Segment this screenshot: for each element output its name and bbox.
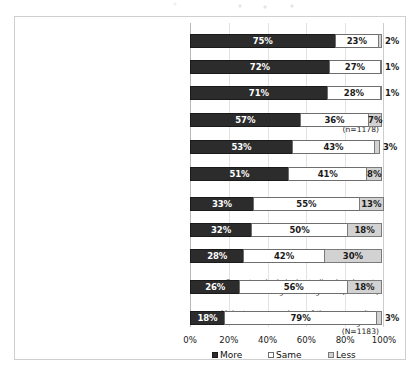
- bar-row: 51%41%8%: [190, 167, 384, 181]
- bar-row: 32%50%18%: [190, 223, 384, 237]
- bar-row: 71%28%1%: [190, 86, 384, 100]
- legend-label: More: [220, 350, 242, 360]
- legend-item-less[interactable]: Less: [328, 350, 356, 360]
- bar-segment-same: 28%: [327, 86, 381, 100]
- x-tick-label: 100%: [372, 335, 397, 345]
- x-axis: 0%20%40%60%80%100%: [190, 335, 384, 347]
- bar-value-label: 18%: [355, 226, 375, 235]
- bar-segment-same: 43%: [292, 140, 375, 154]
- bar-segment-same: 23%: [335, 34, 380, 48]
- bar-segment-same: 55%: [253, 197, 360, 211]
- bar-value-label: 7%: [368, 116, 382, 125]
- bar-value-label: 57%: [235, 116, 255, 125]
- bar-value-label: 41%: [318, 170, 338, 179]
- bar-segment-same: 79%: [224, 311, 377, 325]
- bar-value-label: 1%: [385, 63, 399, 72]
- bar-value-label: 8%: [367, 170, 381, 179]
- bar-value-label: 51%: [229, 170, 249, 179]
- bar-segment-same: 27%: [329, 60, 381, 74]
- legend-label: Same: [276, 350, 302, 360]
- x-tick-label: 40%: [258, 335, 277, 345]
- bar-segment-more: 53%: [190, 140, 293, 154]
- bar-segment-same: 42%: [243, 249, 324, 263]
- bar-value-label: 75%: [253, 37, 273, 46]
- legend-swatch-more-icon: [212, 352, 218, 358]
- bar-segment-more: 28%: [190, 249, 244, 263]
- bar-segment-more: 18%: [190, 311, 225, 325]
- bar-value-label: 18%: [354, 283, 374, 292]
- bar-segment-more: 33%: [190, 197, 254, 211]
- bar-value-label: 72%: [250, 63, 270, 72]
- bar-value-label: 27%: [345, 63, 365, 72]
- bar-value-label: 13%: [361, 200, 381, 209]
- legend-swatch-same-icon: [268, 352, 274, 358]
- bar-segment-less: 18%: [347, 280, 382, 294]
- bar-segment-more: 71%: [190, 86, 328, 100]
- bar-segment-more: 51%: [190, 167, 289, 181]
- chart-container: People with a mental illness (1190)75%23…: [14, 16, 406, 360]
- plot-area: People with a mental illness (1190)75%23…: [190, 23, 384, 327]
- bar-segment-more: 72%: [190, 60, 330, 74]
- bar-value-label: 43%: [323, 143, 343, 152]
- bar-value-label: 79%: [291, 314, 311, 323]
- x-tick-label: 60%: [297, 335, 316, 345]
- bar-row: 57%36%7%: [190, 113, 384, 127]
- bar-value-label: 26%: [205, 283, 225, 292]
- bar-segment-less: 18%: [347, 223, 382, 237]
- bar-value-label: 3%: [385, 314, 399, 323]
- bar-segment-less: 30%: [324, 249, 382, 263]
- bar-row: 33%55%13%: [190, 197, 384, 211]
- legend-swatch-less-icon: [328, 352, 334, 358]
- bar-segment-less: 13%: [359, 197, 384, 211]
- bar-value-label: 23%: [347, 37, 367, 46]
- bar-value-label: 28%: [344, 89, 364, 98]
- bar-row: 18%79%3%: [190, 311, 384, 325]
- bar-segment-same: 36%: [300, 113, 370, 127]
- x-tick-label: 80%: [336, 335, 355, 345]
- bar-row: 72%27%1%: [190, 60, 384, 74]
- bar-value-label: 2%: [385, 37, 399, 46]
- bar-value-label: 1%: [385, 89, 399, 98]
- bar-segment-more: 26%: [190, 280, 240, 294]
- bar-segment-more: 57%: [190, 113, 301, 127]
- bar-row: 75%23%2%: [190, 34, 384, 48]
- scan-artifacts: [0, 0, 420, 14]
- legend-item-same[interactable]: Same: [268, 350, 302, 360]
- bar-value-label: 50%: [290, 226, 310, 235]
- x-tick-label: 20%: [219, 335, 238, 345]
- bar-segment-more: 32%: [190, 223, 252, 237]
- bar-row: 28%42%30%: [190, 249, 384, 263]
- bar-segment-less: 3%: [374, 140, 380, 154]
- bar-segment-less: 2%: [378, 34, 382, 48]
- bar-value-label: 36%: [324, 116, 344, 125]
- bar-segment-less: 8%: [366, 167, 382, 181]
- bar-segment-same: 50%: [251, 223, 348, 237]
- bar-row: 26%56%18%: [190, 280, 384, 294]
- bar-segment-same: 56%: [239, 280, 348, 294]
- bar-segment-less: 3%: [376, 311, 382, 325]
- legend-item-more[interactable]: More: [212, 350, 242, 360]
- bar-value-label: 71%: [249, 89, 269, 98]
- legend-label: Less: [336, 350, 356, 360]
- bar-value-label: 42%: [274, 252, 294, 261]
- bar-value-label: 32%: [211, 226, 231, 235]
- bar-value-label: 18%: [197, 314, 217, 323]
- bar-segment-more: 75%: [190, 34, 336, 48]
- chart-legend: MoreSameLess: [190, 350, 384, 363]
- bar-segment-less: 1%: [380, 86, 382, 100]
- bar-segment-same: 41%: [288, 167, 368, 181]
- bar-value-label: 30%: [343, 252, 363, 261]
- bar-value-label: 3%: [383, 143, 397, 152]
- bar-value-label: 56%: [284, 283, 304, 292]
- bar-row: 53%43%3%: [190, 140, 384, 154]
- bar-value-label: 53%: [231, 143, 251, 152]
- bar-value-label: 28%: [207, 252, 227, 261]
- x-tick-label: 0%: [183, 335, 197, 345]
- bar-value-label: 33%: [212, 200, 232, 209]
- bar-segment-less: 1%: [380, 60, 382, 74]
- bar-segment-less: 7%: [368, 113, 382, 127]
- bar-value-label: 55%: [296, 200, 316, 209]
